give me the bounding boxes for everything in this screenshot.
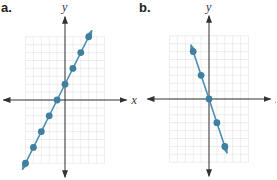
data-point — [198, 72, 205, 79]
graph-panel-b: b. xy — [138, 0, 276, 180]
data-point — [38, 128, 45, 135]
x-axis-label: x — [131, 93, 138, 107]
data-point — [206, 96, 213, 103]
data-point — [54, 97, 61, 104]
coordinate-plane-a: xy — [0, 0, 138, 180]
graph-line — [22, 100, 57, 170]
data-point — [214, 119, 221, 126]
y-axis-label: y — [205, 0, 212, 14]
data-point — [85, 33, 92, 40]
coordinate-plane-b: xy — [138, 0, 276, 180]
data-point — [30, 144, 37, 151]
graph-line — [57, 30, 92, 100]
data-point — [70, 65, 77, 72]
data-point — [22, 160, 29, 167]
graph-panel-a: a. xy — [0, 0, 138, 180]
y-axis-label: y — [61, 0, 68, 14]
data-point — [221, 143, 228, 150]
data-point — [46, 112, 53, 119]
data-point — [190, 48, 197, 55]
data-point — [77, 49, 84, 56]
data-point — [62, 81, 69, 88]
x-axis-label: x — [275, 92, 277, 106]
